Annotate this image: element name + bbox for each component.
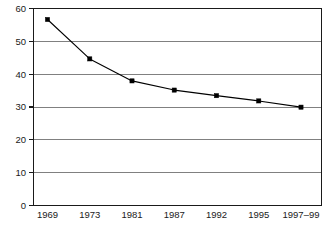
- x-tick-label-6: 1997–99: [283, 209, 320, 220]
- y-tick-label-20: 20: [15, 134, 26, 145]
- x-tick-label-0: 1969: [37, 209, 58, 220]
- chart-background: [0, 0, 331, 225]
- y-tick-label-60: 60: [15, 3, 26, 14]
- chart-canvas: 0102030405060 19691973198119871992199519…: [0, 0, 331, 225]
- y-tick-label-0: 0: [21, 200, 26, 211]
- data-point-2: [130, 79, 134, 83]
- x-tick-label-3: 1987: [164, 209, 185, 220]
- data-point-3: [172, 88, 176, 92]
- data-point-4: [214, 94, 218, 98]
- data-point-0: [45, 17, 49, 21]
- x-tick-label-1: 1973: [79, 209, 100, 220]
- data-point-5: [257, 99, 261, 103]
- x-tick-label-4: 1992: [206, 209, 227, 220]
- y-tick-label-10: 10: [15, 167, 26, 178]
- data-point-6: [299, 105, 303, 109]
- y-tick-label-50: 50: [15, 36, 26, 47]
- data-point-1: [88, 57, 92, 61]
- line-chart: 0102030405060 19691973198119871992199519…: [0, 0, 331, 225]
- x-tick-label-2: 1981: [121, 209, 142, 220]
- x-tick-label-5: 1995: [248, 209, 269, 220]
- y-tick-label-40: 40: [15, 69, 26, 80]
- y-tick-label-30: 30: [15, 101, 26, 112]
